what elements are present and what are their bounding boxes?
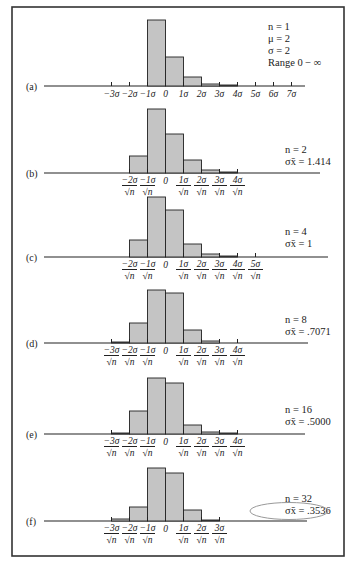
histogram-bar [148, 20, 166, 86]
tick-label-numerator: 4σ [233, 436, 243, 446]
tick-label: 0 [163, 437, 168, 447]
tick-label-numerator: 4σ [233, 175, 243, 185]
annotation: Range 0 − ∞ [268, 57, 321, 68]
annotation: σ = 2 [268, 45, 290, 56]
histogram-bar [130, 240, 148, 257]
histogram-bar [202, 341, 220, 343]
tick-label-numerator: 1σ [179, 259, 189, 269]
panel-b: (b)−2σ√n−1σ√n01σ√n2σ√n3σ√n4σ√nn = 2σx̄ =… [26, 109, 331, 197]
histogram-bar [130, 507, 148, 521]
histogram-bar [148, 197, 166, 257]
panel-label: (b) [26, 168, 38, 180]
histogram-bar [166, 383, 184, 434]
tick-label-denominator: √n [107, 448, 117, 458]
tick-label-numerator: 3σ [214, 436, 225, 446]
tick-label-denominator: √n [179, 535, 189, 545]
tick-label-numerator: −1σ [140, 345, 156, 355]
tick-label-denominator: √n [143, 448, 153, 458]
tick-label: 2σ [197, 89, 207, 99]
histogram-bar [166, 473, 184, 521]
tick-label-denominator: √n [179, 187, 189, 197]
tick-label-numerator: 1σ [179, 175, 189, 185]
tick-label-denominator: √n [125, 448, 135, 458]
histogram-bar [166, 210, 184, 257]
annotation: n = 8 [285, 314, 307, 325]
tick-label-numerator: −1σ [140, 259, 156, 269]
tick-label-numerator: −2σ [122, 175, 138, 185]
annotation: n = 4 [285, 226, 307, 237]
tick-label-numerator: −2σ [122, 436, 138, 446]
histogram-bar [148, 378, 166, 434]
panel-label: (a) [26, 81, 37, 93]
histogram-bar [148, 109, 166, 173]
panel-c: (c)−2σ√n−1σ√n01σ√n2σ√n3σ√n4σ√n5σ√nn = 4σ… [26, 197, 328, 281]
tick-label-denominator: √n [197, 357, 207, 367]
tick-label-numerator: 1σ [179, 436, 189, 446]
tick-label-numerator: −1σ [140, 175, 156, 185]
tick-label: −2σ [122, 89, 138, 99]
panel-label: (c) [26, 252, 37, 264]
tick-label-denominator: √n [215, 448, 225, 458]
histogram-bar [148, 290, 166, 343]
tick-label-numerator: 3σ [214, 523, 225, 533]
tick-label-numerator: 2σ [197, 436, 207, 446]
tick-label: −1σ [140, 89, 156, 99]
histogram-bar [184, 77, 202, 86]
tick-label: 3σ [214, 89, 225, 99]
histogram-bar [202, 170, 220, 173]
tick-label-numerator: 2σ [197, 259, 207, 269]
histogram-bar [112, 433, 130, 434]
tick-label-numerator: −1σ [140, 523, 156, 533]
tick-label-denominator: √n [197, 448, 207, 458]
histogram-bar [202, 254, 220, 257]
histogram-bar [202, 432, 220, 434]
histogram-bar [202, 520, 220, 521]
annotation: n = 1 [268, 21, 290, 32]
panels: (a)−3σ−2σ−1σ01σ2σ3σ4σ5σ6σ7σn = 1μ = 2σ =… [26, 20, 331, 545]
tick-label-numerator: 4σ [233, 259, 243, 269]
tick-label-denominator: √n [125, 187, 135, 197]
tick-label-denominator: √n [143, 187, 153, 197]
annotation: σx̄ = .7071 [285, 326, 331, 337]
tick-label-denominator: √n [251, 271, 261, 281]
tick-label-numerator: −2σ [122, 523, 138, 533]
tick-label-numerator: 2σ [197, 523, 207, 533]
tick-label-numerator: 2σ [197, 175, 207, 185]
tick-label-numerator: 1σ [179, 523, 189, 533]
tick-label: 0 [163, 524, 168, 534]
tick-label: 0 [163, 346, 168, 356]
histogram-bar [130, 323, 148, 343]
tick-label-denominator: √n [215, 357, 225, 367]
tick-label-numerator: −3σ [104, 345, 120, 355]
tick-label-numerator: −1σ [140, 436, 156, 446]
tick-label-numerator: −2σ [122, 259, 138, 269]
histogram-bar [184, 425, 202, 434]
tick-label-denominator: √n [179, 357, 189, 367]
tick-label-numerator: 3σ [214, 175, 225, 185]
tick-label: 0 [163, 176, 168, 186]
tick-label-denominator: √n [233, 187, 243, 197]
tick-label: 6σ [269, 89, 279, 99]
tick-label-numerator: −3σ [104, 523, 120, 533]
histogram-bar [184, 160, 202, 173]
tick-label-denominator: √n [143, 535, 153, 545]
tick-label-denominator: √n [125, 535, 135, 545]
tick-label-denominator: √n [197, 187, 207, 197]
tick-label: 5σ [251, 89, 261, 99]
panel-label: (d) [26, 338, 38, 350]
annotation: σx̄ = 1.414 [285, 156, 331, 167]
annotation: n = 2 [285, 144, 307, 155]
tick-label-denominator: √n [233, 448, 243, 458]
tick-label: 0 [163, 260, 168, 270]
panel-f: (f)−3σ√n−2σ√n−1σ√n01σ√n2σ√n3σ√nn = 32σx̄… [26, 468, 331, 545]
tick-label-denominator: √n [107, 535, 117, 545]
histogram-bar [148, 468, 166, 521]
histogram-bar [166, 134, 184, 173]
tick-label-numerator: 4σ [233, 345, 243, 355]
tick-label-numerator: 3σ [214, 259, 225, 269]
tick-label-denominator: √n [143, 357, 153, 367]
tick-label-denominator: √n [197, 535, 207, 545]
tick-label-numerator: 2σ [197, 345, 207, 355]
histogram-bar [220, 433, 238, 434]
histogram-bar [130, 156, 148, 173]
